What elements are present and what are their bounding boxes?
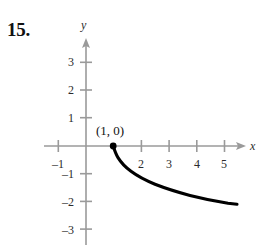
filled-circle-icon (110, 143, 117, 150)
y-tick-label-neg1: –1 (50, 168, 74, 180)
x-tick-label-5: 5 (213, 158, 235, 170)
curve-path (113, 146, 237, 204)
x-tick-label-2: 2 (130, 158, 152, 170)
y-tick-label-neg3: –3 (50, 224, 74, 236)
y-axis-label: y (81, 19, 86, 31)
y-tick-label-2: 2 (56, 84, 74, 96)
y-axis (82, 38, 90, 245)
x-tick-label-3: 3 (158, 158, 180, 170)
y-tick-label-1: 1 (56, 112, 74, 124)
x-axis (44, 142, 246, 150)
y-tick-label-neg2: –2 (50, 196, 74, 208)
graph-canvas (0, 0, 264, 252)
y-tick-label-3: 3 (56, 56, 74, 68)
x-tick-label-4: 4 (186, 158, 208, 170)
x-axis-label: x (250, 140, 255, 152)
point-annotation-label: (1, 0) (96, 124, 124, 137)
